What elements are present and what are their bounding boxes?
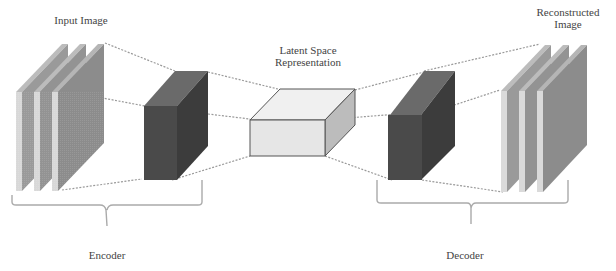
- latent-label-line1: Latent Space: [258, 44, 358, 56]
- latent-space-label: Latent Space Representation: [258, 44, 358, 68]
- latent-label-line2: Representation: [258, 56, 358, 68]
- reconstructed-label-line1: Reconstructed: [520, 6, 616, 18]
- input-image-label: Input Image: [36, 14, 126, 26]
- encoder-label: Encoder: [72, 249, 142, 261]
- autoencoder-diagram: [0, 0, 616, 271]
- encoder-text: Encoder: [89, 249, 126, 261]
- reconstructed-label-line2: Image: [520, 18, 616, 30]
- reconstructed-image-label: Reconstructed Image: [520, 6, 616, 30]
- encoder-block: [144, 71, 208, 180]
- decoder-block: [388, 71, 455, 180]
- input-image-stack: [16, 44, 104, 191]
- input-image-text: Input Image: [54, 14, 107, 26]
- reconstructed-image-stack: [501, 45, 587, 192]
- decoder-text: Decoder: [446, 249, 483, 261]
- decoder-label: Decoder: [430, 249, 500, 261]
- latent-space-block: [250, 89, 355, 156]
